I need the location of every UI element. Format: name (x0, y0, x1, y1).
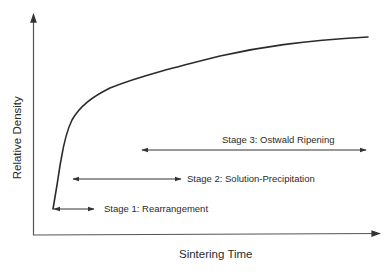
sintering-diagram: Stage 1: Rearrangement Stage 2: Solution… (0, 0, 391, 274)
stage1-label: Stage 1: Rearrangement (104, 204, 208, 214)
stage3-label: Stage 3: Ostwald Ripening (222, 135, 334, 145)
x-axis-label: Sintering Time (179, 249, 253, 261)
x-axis (33, 234, 380, 236)
y-axis-label: Relative Density (12, 94, 24, 182)
stage2-label: Stage 2: Solution-Precipitation (187, 174, 315, 184)
